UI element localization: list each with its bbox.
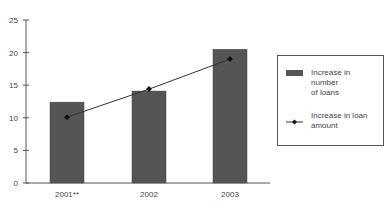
legend-item-number-of-loans: Increase in number of loans [286, 68, 377, 98]
bar [132, 91, 166, 183]
bar-swatch-icon [286, 70, 303, 76]
legend-item-loan-amount: Increase in loan amount [286, 111, 377, 131]
y-tick-label: 25 [9, 16, 18, 25]
y-tick-label: 20 [9, 49, 18, 58]
legend-label: Increase in number [311, 68, 377, 88]
y-tick-label: 15 [9, 81, 18, 90]
legend-label: Increase in loan [311, 111, 377, 121]
chart-plot-area: 0510152025 2001**20022003 [0, 0, 270, 210]
legend: Increase in number of loans Increase in … [277, 55, 384, 146]
x-category-label: 2001** [55, 190, 79, 199]
legend-label: amount [311, 121, 377, 131]
bar-series [50, 49, 247, 183]
y-tick-label: 10 [9, 114, 18, 123]
legend-label: of loans [311, 88, 377, 98]
y-axis: 0510152025 [9, 16, 29, 188]
bar [213, 49, 247, 183]
x-axis: 2001**20022003 [26, 183, 270, 199]
y-tick-label: 5 [14, 146, 19, 155]
line-marker-swatch-icon [286, 112, 303, 120]
x-category-label: 2003 [221, 190, 239, 199]
y-tick-label: 0 [14, 179, 19, 188]
x-category-label: 2002 [140, 190, 158, 199]
